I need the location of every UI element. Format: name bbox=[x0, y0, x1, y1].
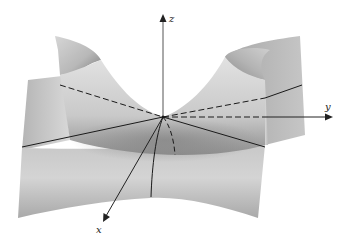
y-axis-arrow-icon bbox=[325, 114, 333, 121]
x-axis-label: x bbox=[96, 224, 102, 235]
saddle-center-shade bbox=[70, 118, 260, 162]
y-axis-label: y bbox=[324, 101, 331, 112]
saddle-surface-diagram: z y x bbox=[0, 0, 345, 242]
z-axis-arrow-icon bbox=[160, 14, 167, 22]
saddle-point bbox=[162, 116, 165, 119]
z-axis-label: z bbox=[168, 13, 175, 24]
